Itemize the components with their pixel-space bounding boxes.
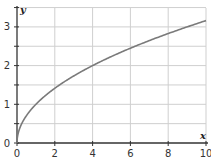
x-tick-label: 8 <box>165 148 171 159</box>
y-axis-label: y <box>19 4 27 15</box>
data-curve <box>17 21 206 143</box>
x-tick-label: 6 <box>127 148 133 159</box>
x-tick-label: 0 <box>14 148 20 159</box>
y-tick-label: 0 <box>4 138 10 149</box>
x-axis-label: x <box>199 130 207 141</box>
x-tick-label: 10 <box>200 148 211 159</box>
y-tick-label: 1 <box>4 99 10 110</box>
y-tick-label: 2 <box>4 60 10 71</box>
y-tick-labels: 0123 <box>4 21 10 148</box>
chart: 0246810 0123 x y <box>0 0 211 162</box>
x-tick-labels: 0246810 <box>14 148 211 159</box>
x-tick-label: 4 <box>89 148 95 159</box>
grid <box>17 8 206 143</box>
y-tick-label: 3 <box>4 21 10 32</box>
x-tick-label: 2 <box>52 148 58 159</box>
